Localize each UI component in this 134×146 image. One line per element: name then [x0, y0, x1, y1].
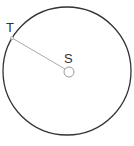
radius-line: [12, 38, 65, 69]
label-s: S: [64, 51, 73, 66]
circle-diagram: T S: [0, 0, 134, 146]
label-t: T: [6, 20, 14, 35]
point-t-marker: [11, 37, 14, 40]
center-marker: [64, 67, 74, 77]
